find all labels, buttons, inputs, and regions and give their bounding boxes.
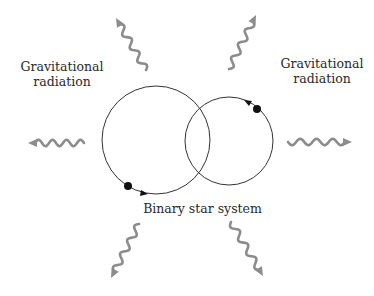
radiation-label-left: Gravitational radiation <box>12 59 112 89</box>
radiation-wave-down-right <box>230 222 259 270</box>
radiation-wave-down-left <box>113 224 139 272</box>
radiation-label-right-line2: radiation <box>272 71 372 86</box>
radiation-label-right-line1: Gravitational <box>272 56 372 71</box>
radiation-label-left-line2: radiation <box>12 74 112 89</box>
radiation-arrowhead-up-left <box>116 18 124 28</box>
radiation-label-left-line1: Gravitational <box>12 59 112 74</box>
large-orbit <box>102 86 210 194</box>
radiation-label-right: Gravitational radiation <box>272 56 372 86</box>
radiation-wave-left <box>35 140 84 146</box>
radiation-wave-up-left <box>120 24 148 70</box>
binary-star-diagram <box>0 0 374 296</box>
radiation-arrowhead-left <box>28 139 37 147</box>
radiation-arrowhead-down-left <box>111 268 119 278</box>
radiation-wave-right <box>288 139 345 145</box>
star-a <box>124 182 132 190</box>
star-b <box>253 105 261 113</box>
radiation-arrowhead-right <box>343 138 352 146</box>
radiation-arrowhead-down-right <box>255 266 263 276</box>
radiation-wave-up-right <box>229 21 254 69</box>
radiation-arrowhead-up-right <box>248 15 256 25</box>
system-label: Binary star system <box>140 201 265 216</box>
